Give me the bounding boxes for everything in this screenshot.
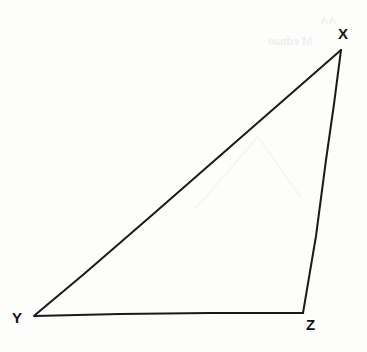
geometry-figure-canvas: M ednao AA X Y Z: [0, 0, 367, 352]
triangle-diagram-svg: [0, 0, 367, 352]
triangle-edge-yz: [34, 313, 303, 316]
triangle-edge-xy: [35, 50, 341, 315]
vertex-label-x: X: [338, 26, 348, 41]
triangle-edge-zx: [303, 50, 341, 313]
vertex-label-z: Z: [306, 317, 315, 332]
scan-ghost-chevron: [196, 137, 300, 208]
vertex-label-y: Y: [12, 310, 22, 325]
